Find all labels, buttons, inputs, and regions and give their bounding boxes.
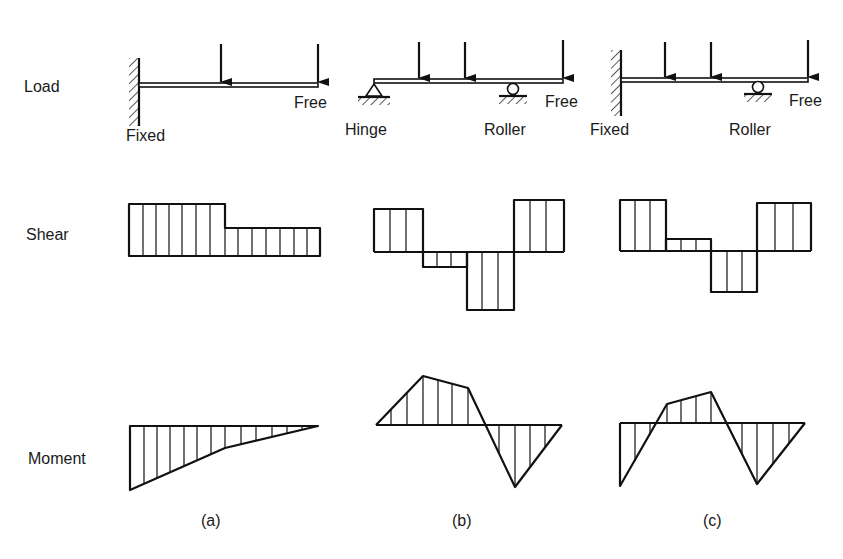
beam: [621, 78, 808, 82]
shear-diagram-a: [129, 204, 320, 256]
beam-diagram: Load Shear Moment Fixed Free Hinge Rolle…: [0, 0, 843, 559]
support-label-free: Free: [294, 94, 327, 111]
support-label-fixed: Fixed: [590, 121, 629, 138]
roller-support-icon: [499, 84, 527, 105]
moment-diagram-a: [130, 426, 318, 490]
beam: [374, 79, 563, 83]
support-label-free: Free: [545, 93, 578, 110]
row-label-shear: Shear: [26, 226, 69, 243]
roller-support-icon: [744, 82, 772, 103]
shear-diagram-b: [374, 200, 564, 310]
load-diagram-b: Hinge Roller Free: [345, 40, 578, 138]
fixed-wall-icon: [611, 50, 621, 116]
beam: [139, 83, 318, 87]
load-diagram-a: Fixed Free: [126, 44, 327, 144]
hinge-support-icon: [358, 84, 390, 105]
load-diagram-c: Fixed Roller Free: [590, 40, 822, 138]
moment-diagram-b: [376, 376, 562, 487]
support-label-roller: Roller: [729, 121, 771, 138]
support-label-free: Free: [789, 92, 822, 109]
shear-diagram-c: [620, 200, 811, 292]
caption-c: (c): [703, 512, 722, 529]
caption-a: (a): [201, 512, 221, 529]
support-label-hinge: Hinge: [345, 121, 387, 138]
moment-diagram-c: [620, 392, 805, 486]
support-label-fixed: Fixed: [126, 127, 165, 144]
support-label-roller: Roller: [484, 121, 526, 138]
row-label-moment: Moment: [28, 450, 86, 467]
row-label-load: Load: [24, 78, 60, 95]
fixed-wall-icon: [129, 58, 139, 126]
caption-b: (b): [452, 512, 472, 529]
